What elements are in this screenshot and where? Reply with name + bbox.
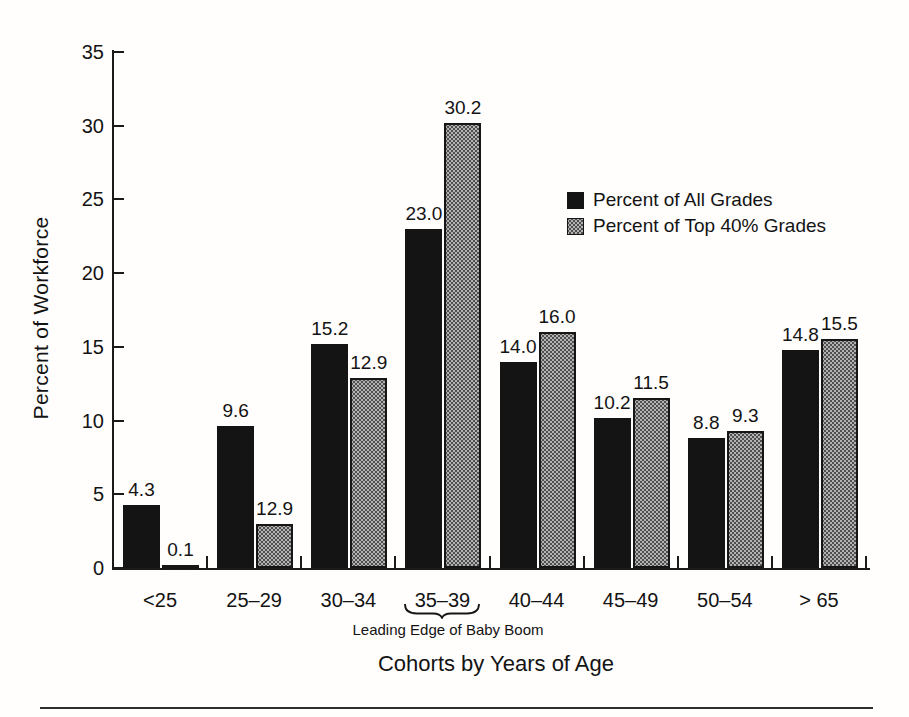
bar-value-label: 15.5 — [799, 313, 879, 335]
bar-value-label: 0.1 — [141, 539, 221, 561]
bar-value-label: 4.3 — [102, 479, 182, 501]
bar-top-grades — [256, 524, 293, 568]
x-category-label: 50–54 — [678, 589, 772, 612]
y-tick-label: 10 — [38, 410, 104, 432]
bar-top-grades — [162, 565, 199, 569]
y-tick — [112, 198, 124, 200]
x-tick — [394, 556, 396, 568]
y-tick-label: 0 — [38, 557, 104, 579]
bar-top-grades — [539, 332, 576, 568]
y-tick — [112, 125, 124, 127]
bar-all-grades — [688, 438, 725, 568]
y-tick-label: 15 — [38, 336, 104, 358]
bar-value-label: 15.2 — [290, 318, 370, 340]
legend-item-top-grades: Percent of Top 40% Grades — [567, 215, 826, 237]
baby-boom-brace-icon — [404, 604, 480, 619]
bar-top-grades — [727, 431, 764, 568]
baby-boom-annotation: Leading Edge of Baby Boom — [337, 621, 559, 638]
bar-value-label: 12.9 — [235, 498, 315, 520]
y-tick-label: 5 — [38, 483, 104, 505]
y-tick-label: 35 — [38, 41, 104, 63]
bar-value-label: 11.5 — [611, 372, 691, 394]
x-tick — [771, 556, 773, 568]
page-bottom-rule — [40, 707, 873, 709]
x-axis-title: Cohorts by Years of Age — [336, 651, 656, 677]
bar-all-grades — [594, 418, 631, 568]
figure-canvas: Percent of Workforce 051015202530354.30.… — [0, 0, 909, 717]
bar-all-grades — [500, 362, 537, 569]
y-tick-label: 30 — [38, 115, 104, 137]
x-tick — [300, 556, 302, 568]
y-tick-label: 20 — [38, 262, 104, 284]
bar-value-label: 9.3 — [705, 405, 785, 427]
legend-swatch-all-grades-icon — [567, 192, 584, 209]
x-category-label: 45–49 — [584, 589, 678, 612]
y-tick-label: 25 — [38, 188, 104, 210]
x-category-label: > 65 — [772, 589, 866, 612]
legend-label-all-grades: Percent of All Grades — [593, 189, 773, 211]
bar-top-grades — [633, 398, 670, 568]
bar-value-label: 30.2 — [423, 97, 503, 119]
bar-all-grades — [782, 350, 819, 568]
x-tick — [583, 556, 585, 568]
bar-value-label: 16.0 — [517, 306, 597, 328]
x-tick — [677, 556, 679, 568]
bar-all-grades — [311, 344, 348, 568]
y-tick — [112, 51, 124, 53]
bar-top-grades — [821, 339, 858, 568]
bar-value-label: 9.6 — [196, 400, 276, 422]
bar-value-label: 12.9 — [329, 352, 409, 374]
legend-label-top-grades: Percent of Top 40% Grades — [593, 215, 826, 237]
x-axis-line — [112, 568, 870, 570]
x-category-label: 40–44 — [490, 589, 584, 612]
bar-top-grades — [350, 378, 387, 568]
legend-item-all-grades: Percent of All Grades — [567, 189, 826, 211]
x-category-label: <25 — [113, 589, 207, 612]
y-tick — [112, 272, 124, 274]
legend: Percent of All Grades Percent of Top 40%… — [567, 189, 826, 241]
x-category-label: 30–34 — [301, 589, 395, 612]
bar-top-grades — [444, 123, 481, 568]
x-category-label: 25–29 — [207, 589, 301, 612]
y-tick — [112, 420, 124, 422]
x-tick — [865, 556, 867, 568]
x-tick — [489, 556, 491, 568]
bar-all-grades — [405, 229, 442, 568]
y-tick — [112, 346, 124, 348]
legend-swatch-top-grades-icon — [567, 218, 584, 235]
